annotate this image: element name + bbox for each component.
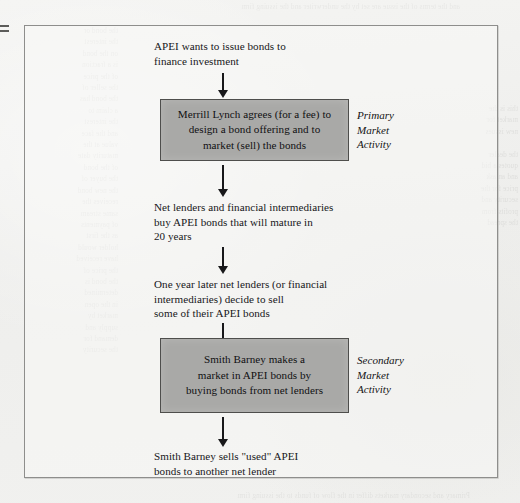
scan-edge-artifact-lower — [0, 30, 9, 32]
flow-step-6-text: Smith Barney sells "used" APEI bonds to … — [154, 449, 404, 478]
flow-step-2-box: Merrill Lynch agrees (for a fee) to desi… — [160, 99, 349, 161]
flowchart: APEI wants to issue bonds to finance inv… — [24, 25, 498, 478]
flow-step-1-text: APEI wants to issue bonds to finance inv… — [154, 39, 384, 68]
arrow-stem — [222, 247, 224, 266]
flow-step-4-text: One year later net lenders (or financial… — [154, 277, 404, 321]
arrow-head-icon — [218, 439, 228, 447]
primary-market-activity-label: Primary Market Activity — [357, 108, 447, 152]
flow-step-3-text: Net lenders and financial intermediaries… — [154, 200, 404, 244]
flow-arrow-5 — [216, 417, 229, 447]
arrow-head-icon — [218, 90, 228, 98]
secondary-market-activity-label: Secondary Market Activity — [357, 353, 452, 397]
arrow-stem — [222, 165, 224, 189]
arrow-head-icon — [218, 266, 228, 274]
arrow-stem — [222, 73, 224, 90]
scan-edge-artifact-upper — [0, 25, 9, 27]
arrow-stem — [222, 417, 224, 439]
flow-step-5-box: Smith Barney makes a market in APEI bond… — [160, 338, 349, 413]
flow-arrow-3 — [216, 247, 229, 274]
flow-arrow-2 — [216, 165, 229, 197]
arrow-head-icon — [218, 189, 228, 197]
flow-arrow-1 — [216, 73, 229, 98]
